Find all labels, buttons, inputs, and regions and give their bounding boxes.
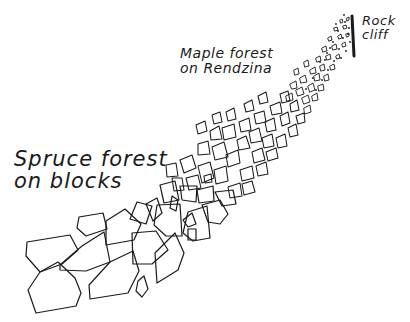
rock-cliff-line — [352, 16, 354, 56]
maple-forest-label: Maple forest on Rendzina — [180, 46, 273, 75]
diagram-canvas: Rock cliff Maple forest on Rendzina Spru… — [0, 0, 410, 322]
spruce-forest-label: Spruce forest on blocks — [14, 148, 168, 192]
large-blocks — [26, 181, 236, 313]
small-gravel — [286, 17, 349, 114]
rock-cliff-label: Rock cliff — [362, 14, 396, 41]
medium-blocks — [166, 91, 305, 198]
